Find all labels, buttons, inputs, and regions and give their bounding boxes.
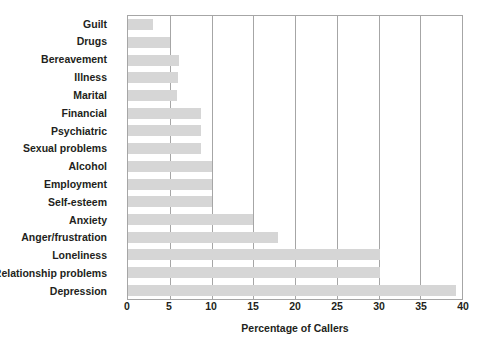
category-label: Alcohol [0,158,113,176]
bar-row [128,264,462,282]
bar [128,72,178,83]
x-tick-label: 40 [457,301,469,312]
bar-row [128,16,462,34]
bar [128,179,212,190]
bar [128,90,177,101]
bar [128,214,253,225]
category-label: Anxiety [0,211,113,229]
category-axis-labels: GuiltDrugsBereavementIllnessMaritalFinan… [0,15,113,300]
bar-row [128,122,462,140]
x-tick-label: 25 [331,301,343,312]
bar-row [128,104,462,122]
bar-chart: GuiltDrugsBereavementIllnessMaritalFinan… [0,0,493,352]
bar-row [128,211,462,229]
bar-row [128,158,462,176]
bar [128,249,380,260]
x-tick-label: 15 [247,301,259,312]
bar [128,143,201,154]
bar [128,161,212,172]
category-label: Anger/frustration [0,229,113,247]
bar-row [128,34,462,52]
category-label: Financial [0,104,113,122]
category-label: Depression [0,282,113,300]
gridline [462,16,463,299]
category-label: Employment [0,175,113,193]
category-label: Guilt [0,15,113,33]
bar [128,267,380,278]
x-axis-title: Percentage of Callers [127,322,463,334]
bar [128,196,212,207]
category-label: Bereavement [0,51,113,69]
bar-row [128,51,462,69]
bar-row [128,228,462,246]
bar-row [128,87,462,105]
bar-row [128,175,462,193]
x-tick-label: 20 [289,301,301,312]
x-tick-label: 35 [415,301,427,312]
category-label: Psychiatric [0,122,113,140]
bar [128,108,201,119]
bar-series [128,16,462,299]
x-tick-label: 10 [205,301,217,312]
x-tick-label: 0 [124,301,130,312]
bar [128,285,456,296]
value-axis-ticks: 0510152025303540 [127,301,463,317]
bar [128,232,278,243]
bar [128,125,201,136]
bar-row [128,281,462,299]
category-label: Self-esteem [0,193,113,211]
bar-row [128,246,462,264]
category-label: Sexual problems [0,140,113,158]
x-tick-label: 5 [166,301,172,312]
category-label: Marital [0,86,113,104]
plot-area [127,15,463,300]
category-label: Relationship problems [0,264,113,282]
bar [128,55,179,66]
bar-row [128,69,462,87]
category-label: Illness [0,68,113,86]
category-label: Loneliness [0,247,113,265]
bar-row [128,193,462,211]
x-tick-label: 30 [373,301,385,312]
category-label: Drugs [0,33,113,51]
bar [128,19,153,30]
bar [128,37,170,48]
bar-row [128,140,462,158]
